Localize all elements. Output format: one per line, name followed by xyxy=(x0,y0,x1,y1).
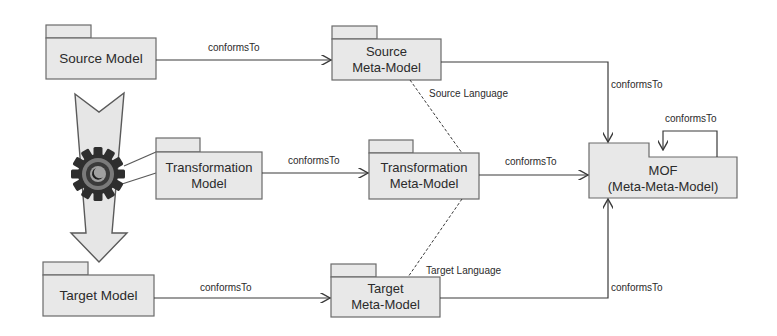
target-meta-model-text-2: Meta-Model xyxy=(351,297,420,313)
edge-label-transformation-meta-to-mof: conformsTo xyxy=(505,156,557,168)
transformation-model-text-1: Transformation xyxy=(166,160,253,176)
gear-connector-bottom xyxy=(122,173,156,184)
source-model-text: Source Model xyxy=(59,50,142,67)
source-model-label: Source Model xyxy=(46,38,156,79)
mof-text-2: (Meta-Meta-Model) xyxy=(608,179,719,195)
transformation-meta-model-text-1: Transformation xyxy=(381,160,468,176)
source-meta-model-text-1: Source xyxy=(366,44,407,60)
target-model-text: Target Model xyxy=(59,287,137,304)
target-language-label: Target Language xyxy=(426,265,501,277)
edge-label-source-to-meta: conformsTo xyxy=(208,42,260,54)
source-language-label: Source Language xyxy=(429,88,508,100)
target-model-label: Target Model xyxy=(43,275,154,316)
edge-label-target-meta-to-mof: conformsTo xyxy=(611,282,663,294)
edge-label-mof-self: conformsTo xyxy=(665,113,717,125)
edge-label-transformation-to-meta: conformsTo xyxy=(288,155,340,167)
transformation-model-text-2: Model xyxy=(191,176,226,192)
edge-label-source-meta-to-mof: conformsTo xyxy=(611,79,663,91)
source-meta-model-label: Source Meta-Model xyxy=(332,39,441,80)
edge-mof-self xyxy=(663,131,717,157)
mof-label: MOF (Meta-Meta-Model) xyxy=(589,160,737,198)
edge-target-meta-to-mof xyxy=(440,199,608,298)
mof-text-1: MOF xyxy=(649,163,678,179)
gear-connector-top xyxy=(124,152,156,166)
edge-source-meta-to-mof xyxy=(441,62,608,142)
transformation-meta-model-label: Transformation Meta-Model xyxy=(369,153,479,199)
target-meta-model-label: Target Meta-Model xyxy=(331,277,440,317)
transformation-model-label: Transformation Model xyxy=(156,152,262,199)
transformation-meta-model-text-2: Meta-Model xyxy=(390,176,459,192)
target-meta-model-text-1: Target xyxy=(367,281,403,297)
source-meta-model-text-2: Meta-Model xyxy=(352,60,421,76)
edge-label-target-to-meta: conformsTo xyxy=(200,282,252,294)
